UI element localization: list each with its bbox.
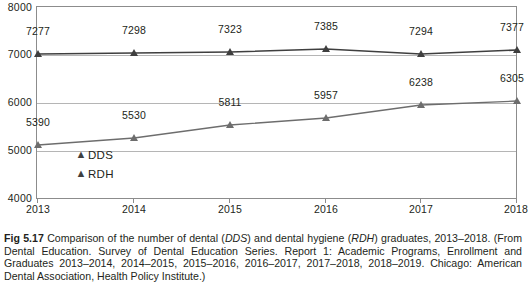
point-label-rdh-2013: 5390 [15, 116, 61, 128]
caption-italic-dds: DDS [225, 232, 247, 244]
figure-number: Fig 5.17 [4, 232, 44, 244]
point-label-dds-2014: 7298 [111, 24, 157, 36]
point-label-dds-2013: 7277 [15, 25, 61, 37]
point-label-dds-2016: 7385 [303, 20, 349, 32]
legend-label-dds: DDS [88, 149, 113, 161]
caption-text-2: ) and dental hygiene ( [247, 232, 351, 244]
point-label-rdh-2017: 6238 [398, 76, 444, 88]
point-label-dds-2018: 7377 [489, 21, 532, 33]
figure-caption: Fig 5.17 Comparison of the number of den… [4, 232, 522, 282]
point-label-dds-2017: 7294 [398, 25, 444, 37]
chart-legend: ▲ DDS ▲ RDH [74, 145, 160, 183]
line-chart: 8000 7000 6000 5000 4000 2013 2014 2015 … [0, 0, 526, 232]
legend-item-dds: ▲ DDS [74, 145, 160, 164]
point-label-rdh-2018: 6305 [489, 72, 532, 84]
series-lines [0, 0, 526, 232]
point-label-rdh-2015: 5811 [207, 96, 253, 108]
legend-label-rdh: RDH [88, 168, 114, 180]
caption-text-1: Comparison of the number of dental ( [44, 232, 225, 244]
legend-item-rdh: ▲ RDH [74, 164, 160, 183]
series-line-rdh [38, 101, 517, 145]
series-line-dds [38, 49, 517, 54]
caption-italic-rdh: RDH [351, 232, 374, 244]
point-label-rdh-2016: 5957 [303, 89, 349, 101]
triangle-marker-icon: ▲ [74, 168, 88, 179]
point-label-dds-2015: 7323 [207, 23, 253, 35]
point-label-rdh-2014: 5530 [111, 109, 157, 121]
triangle-marker-icon: ▲ [74, 149, 88, 160]
